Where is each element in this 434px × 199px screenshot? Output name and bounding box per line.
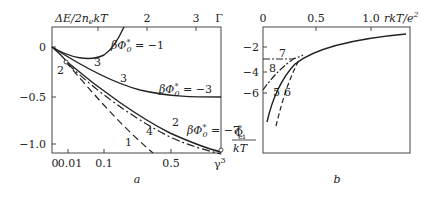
figure: ΔE/2nekT 2 3 Γ 0 −0.5 −1.0 0 0.01 0.1 0.… <box>0 0 434 199</box>
ylabel-denominator: kT <box>233 142 249 155</box>
marker <box>64 60 68 64</box>
panel-a: ΔE/2nekT 2 3 Γ 0 −0.5 −1.0 0 0.01 0.1 0.… <box>19 12 240 186</box>
curve-label-1: 1 <box>125 136 132 149</box>
x-axis-label: rkT/e2 <box>384 10 419 25</box>
top-tick-label: 3 <box>193 12 200 25</box>
panel-b-caption: b <box>333 173 340 186</box>
y-tick-label: 0 <box>39 41 46 54</box>
curve-phi-minus-7 <box>66 61 221 152</box>
curve-label-3: 3 <box>94 56 101 69</box>
curve-label-5: 5 <box>273 86 280 99</box>
y-tick-label: −6 <box>243 87 259 100</box>
marker <box>219 148 223 152</box>
curve-label-2: 2 <box>57 64 64 77</box>
label-phi-minus-1: βΦ*0 = −1 <box>110 38 164 54</box>
label-phi-minus-3: βΦ*0 = −3 <box>158 82 212 98</box>
curve-4 <box>68 64 221 154</box>
x-tick-label: 0 <box>260 12 267 25</box>
panel-b: 0 0.5 1.0 rkT/e2 −2 −4 −6 Φ*ei kT 7 8 5 … <box>232 10 419 186</box>
curve-label-8: 8 <box>269 62 276 75</box>
y-tick-label: −4 <box>243 66 259 79</box>
y-tick-label: −1.0 <box>19 138 46 151</box>
top-axis-label: Γ <box>215 12 223 25</box>
y-tick-label: −0.5 <box>19 91 46 104</box>
x-tick-label: 0.5 <box>307 12 325 25</box>
curve-label-4: 4 <box>146 125 153 138</box>
panel-a-caption: a <box>134 173 141 186</box>
panel-a-ylabel: ΔE/2nekT <box>54 12 109 26</box>
bottom-axis-label: γ3 <box>214 156 226 171</box>
ylabel-numerator: Φ*ei <box>234 124 246 141</box>
top-tick-label: 2 <box>144 12 151 25</box>
curve-1 <box>66 62 153 153</box>
x-tick-label: 0.5 <box>162 157 180 170</box>
x-tick-label: 0.1 <box>95 157 113 170</box>
label-phi-minus-7: βΦ*0 = −7 <box>186 123 240 139</box>
y-tick-label: −2 <box>243 41 259 54</box>
x-tick-label: 0.01 <box>58 157 83 170</box>
curve-label-6: 6 <box>284 86 291 99</box>
x-tick-label: 1.0 <box>362 12 380 25</box>
curve-label-3: 3 <box>120 72 127 85</box>
curve-5 <box>267 34 406 122</box>
curve-label-2: 2 <box>172 116 179 129</box>
curve-label-7: 7 <box>279 47 286 60</box>
